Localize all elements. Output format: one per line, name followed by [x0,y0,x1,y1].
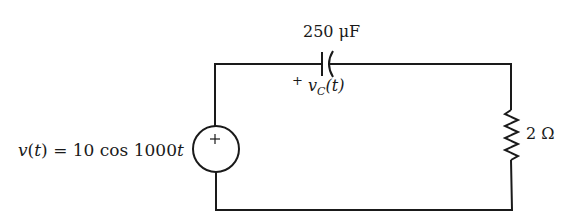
source-label-var: t [177,140,184,160]
capacitor-voltage-arg: (t) [325,76,344,95]
wire-bottom [216,160,512,210]
source-label-v: v [18,140,28,160]
capacitor-value-label: 250 μF [303,22,360,41]
resistor-value-label: 2 Ω [526,124,555,143]
voltage-source-icon [193,126,239,172]
wire-top-right [328,64,511,110]
resistor-zigzag [505,110,518,160]
source-label-expr: = 10 cos 1000 [48,140,177,160]
capacitor-plus-mark: + [292,73,303,88]
circuit-diagram [0,0,581,216]
source-label: v(t) = 10 cos 1000t [18,140,184,160]
wire-left-top [215,64,321,126]
capacitor-voltage-label: + vC(t) [292,76,344,95]
paren-close: ) [41,140,48,160]
capacitor-voltage-subscript: C [317,85,325,98]
capacitor-voltage-symbol: v [308,76,317,95]
